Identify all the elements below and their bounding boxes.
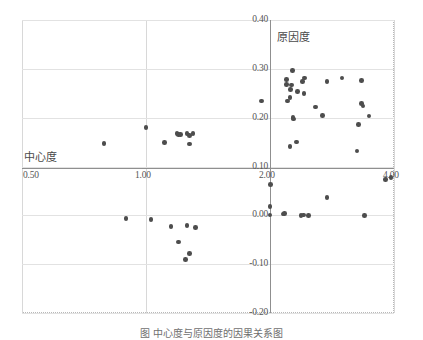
y-gridline xyxy=(22,20,394,21)
scatter-point xyxy=(356,122,361,127)
scatter-point xyxy=(176,240,181,245)
scatter-point xyxy=(383,177,388,182)
scatter-point xyxy=(268,204,273,209)
scatter-point xyxy=(325,79,330,84)
scatter-point xyxy=(359,78,364,83)
scatter-point xyxy=(288,87,293,92)
figure-caption: 图 中心度与原因度的因果关系图 xyxy=(0,325,423,340)
x-tick-label: 1.00 xyxy=(135,170,151,180)
y-tick-label: 0.40 xyxy=(210,14,268,24)
scatter-point xyxy=(284,77,289,82)
y-gridline xyxy=(22,264,394,265)
x-axis-title: 中心度 xyxy=(24,148,57,164)
scatter-point xyxy=(187,251,192,256)
scatter-point xyxy=(301,213,306,218)
y-tick-label: -0.20 xyxy=(210,307,268,317)
scatter-point xyxy=(191,131,196,136)
y-tick-label: -0.10 xyxy=(210,258,268,268)
y-tick-label: 0.20 xyxy=(210,112,268,122)
scatter-point xyxy=(313,105,318,110)
scatter-point xyxy=(187,142,192,147)
scatter-point xyxy=(288,95,293,100)
y-gridline xyxy=(22,215,394,216)
y-gridline xyxy=(22,69,394,70)
y-tick-label: 0.00 xyxy=(210,209,268,219)
scatter-point xyxy=(268,182,273,187)
scatter-point xyxy=(169,224,174,229)
scatter-point xyxy=(193,225,198,230)
scatter-point xyxy=(290,68,295,73)
scatter-point xyxy=(289,83,294,88)
scatter-point xyxy=(259,99,264,104)
scatter-point xyxy=(102,141,107,146)
y-tick-label: 0.30 xyxy=(210,63,268,73)
scatter-point xyxy=(362,213,367,218)
y-axis-line xyxy=(270,20,271,313)
y-gridline xyxy=(22,313,394,314)
scatter-point xyxy=(389,175,394,180)
x-axis-line xyxy=(22,168,394,169)
scatter-point xyxy=(295,89,300,94)
scatter-point xyxy=(282,211,287,216)
scatter-point xyxy=(162,140,167,145)
x-tick-label: 0.50 xyxy=(23,170,39,180)
y-axis-title: 原因度 xyxy=(277,28,310,44)
y-tick-label: 0.10 xyxy=(210,161,268,171)
y-gridline xyxy=(22,118,394,119)
scatter-point xyxy=(288,144,293,149)
x-tick-label: 2.00 xyxy=(259,170,275,180)
scatter-point xyxy=(183,257,188,262)
x-gridline xyxy=(394,20,395,313)
scatter-point xyxy=(185,223,190,228)
scatter-point xyxy=(144,125,149,130)
scatter-point xyxy=(306,213,311,218)
scatter-point xyxy=(302,91,307,96)
scatter-point xyxy=(284,82,289,87)
scatter-point xyxy=(320,113,325,118)
scatter-point xyxy=(325,195,330,200)
